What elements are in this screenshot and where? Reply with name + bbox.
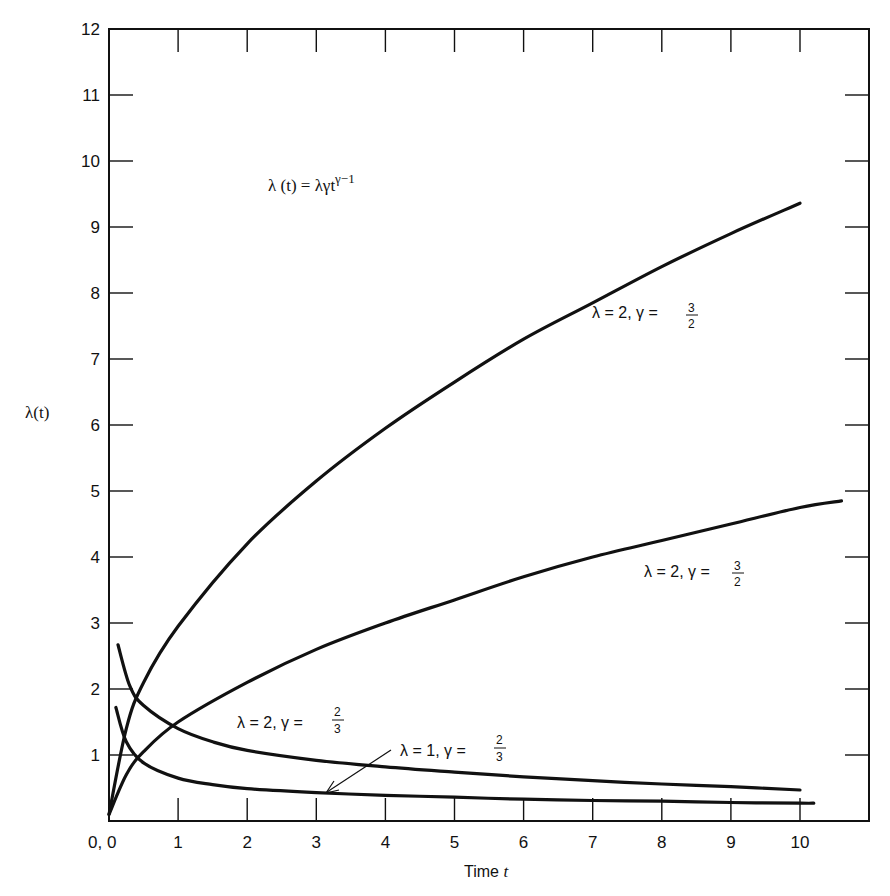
- curve-series-2: [118, 645, 800, 790]
- y-tick-label: 11: [82, 86, 100, 105]
- y-axis-label: λ(t): [25, 403, 49, 422]
- x-tick-label: 3: [312, 833, 321, 852]
- label-denominator: 2: [734, 575, 741, 589]
- label-lower-decreasing: λ = 1, γ = 2 3: [400, 733, 506, 764]
- y-tick-label: 7: [91, 350, 100, 369]
- label-denominator: 3: [496, 750, 503, 764]
- curve-series-1: [109, 501, 842, 815]
- curve-series-0: [109, 203, 800, 814]
- y-tick-label: 9: [91, 218, 100, 237]
- y-tick-label: 10: [81, 152, 100, 171]
- y-tick-label: 5: [91, 482, 100, 501]
- hazard-rate-chart: 12345678910123456789101112 0, 0 λ(t) Tim…: [0, 0, 890, 896]
- y-tick-label: 2: [91, 680, 100, 699]
- label-denominator: 2: [688, 317, 695, 331]
- x-tick-label: 6: [519, 833, 528, 852]
- x-tick-label: 9: [726, 833, 735, 852]
- arrow-icon: [326, 750, 391, 793]
- x-axis-label-text: Time: [464, 863, 503, 880]
- x-tick-label: 10: [791, 833, 810, 852]
- y-tick-label: 1: [91, 746, 100, 765]
- y-axis-label-text: λ(t): [25, 403, 49, 422]
- y-tick-label: 6: [91, 416, 100, 435]
- curves: [109, 203, 842, 814]
- formula-exponent: γ−1: [334, 171, 355, 186]
- label-numerator: 3: [734, 559, 741, 573]
- y-tick-label: 12: [81, 20, 100, 39]
- x-tick-label: 7: [588, 833, 597, 852]
- x-axis-label-var: t: [503, 862, 509, 881]
- label-numerator: 3: [688, 301, 695, 315]
- y-tick-label: 3: [91, 614, 100, 633]
- x-tick-label: 2: [242, 833, 251, 852]
- x-tick-label: 8: [657, 833, 666, 852]
- y-tick-label: 4: [91, 548, 100, 567]
- label-denominator: 3: [334, 722, 341, 736]
- label-text: λ = 2, γ =: [644, 563, 710, 580]
- x-tick-label: 5: [450, 833, 459, 852]
- origin-label: 0, 0: [88, 833, 116, 852]
- label-lower-increasing: λ = 2, γ = 3 2: [644, 559, 744, 589]
- x-tick-label: 4: [381, 833, 390, 852]
- label-text: λ = 1, γ =: [400, 742, 466, 759]
- label-text: λ = 2, γ =: [592, 304, 658, 321]
- x-axis-label: Time t: [464, 862, 509, 881]
- axis-ticks: [109, 29, 869, 821]
- formula-annotation: λ (t) = λγtγ−1: [268, 171, 355, 195]
- plot-frame: [109, 29, 869, 821]
- formula-main: λ (t) = λγt: [268, 176, 335, 195]
- label-upper-decreasing: λ = 2, γ = 2 3: [237, 705, 344, 736]
- label-text: λ = 2, γ =: [237, 714, 303, 731]
- y-tick-label: 8: [91, 284, 100, 303]
- label-numerator: 2: [334, 705, 341, 719]
- label-upper-increasing: λ = 2, γ = 3 2: [592, 301, 698, 331]
- x-tick-label: 1: [173, 833, 182, 852]
- axis-tick-labels: 12345678910123456789101112: [81, 20, 809, 852]
- label-numerator: 2: [496, 733, 503, 747]
